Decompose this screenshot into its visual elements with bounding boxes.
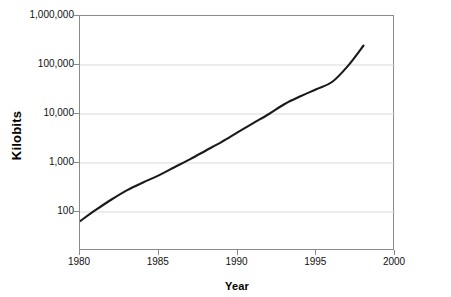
x-axis-tick-mark [158, 250, 159, 255]
y-axis-tick-mark [74, 211, 79, 212]
x-axis-tick-label: 1990 [212, 256, 262, 267]
x-axis-tick-label: 1995 [290, 256, 340, 267]
y-axis-tick-label: 1,000 [10, 157, 74, 167]
x-axis-title-container: Year [79, 276, 395, 294]
y-axis-tick-mark [74, 64, 79, 65]
y-axis-tick-label: 1,000,000 [10, 10, 74, 20]
plot-svg [80, 16, 395, 251]
x-axis-tick-mark [315, 250, 316, 255]
y-axis-tick-labels: 1001,00010,000100,0001,000,000 [8, 0, 74, 297]
x-axis-title: Year [225, 280, 249, 292]
plot-area [79, 15, 394, 250]
x-axis-tick-label: 1980 [54, 256, 104, 267]
y-axis-tick-label: 100,000 [10, 59, 74, 69]
chart-container: Kilobits 1001,00010,000100,0001,000,000 … [0, 0, 451, 297]
y-axis-tick-label: 10,000 [10, 108, 74, 118]
x-axis-tick-mark [394, 250, 395, 255]
x-axis-tick-label: 2000 [369, 256, 419, 267]
y-axis-tick-mark [74, 15, 79, 16]
x-axis-tick-mark [237, 250, 238, 255]
y-axis-tick-mark [74, 162, 79, 163]
y-axis-tick-mark [74, 113, 79, 114]
x-axis-tick-mark [79, 250, 80, 255]
y-axis-tick-label: 100 [10, 206, 74, 216]
x-axis-tick-label: 1985 [133, 256, 183, 267]
series-line-kilobits [80, 46, 364, 222]
